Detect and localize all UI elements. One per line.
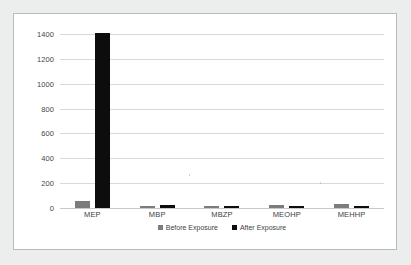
bar-group: [125, 32, 190, 208]
y-axis-tick-label: 0: [50, 204, 54, 213]
x-axis-labels: MEPMBPMBZPMEOHPMEHHP: [60, 210, 384, 219]
y-axis-tick-label: 600: [41, 129, 54, 138]
bar-group: [319, 32, 384, 208]
x-axis-label: MBP: [125, 210, 190, 219]
bar: [95, 33, 110, 208]
gridline-0: 0: [60, 208, 384, 209]
screenshot-root: 0200400600800100012001400 MEPMBPMBZPMEOH…: [0, 0, 411, 265]
legend-label: After Exposure: [240, 224, 286, 231]
artifact-speck: [320, 182, 321, 184]
bar-groups: [60, 32, 384, 208]
bar-group: [190, 32, 255, 208]
y-axis-tick-label: 1000: [37, 79, 54, 88]
bar: [204, 206, 219, 208]
y-axis-tick-label: 400: [41, 154, 54, 163]
legend-label: Before Exposure: [166, 224, 218, 231]
x-axis-label: MBZP: [190, 210, 255, 219]
bar: [269, 205, 284, 208]
bar-group: [254, 32, 319, 208]
y-axis-tick-label: 800: [41, 104, 54, 113]
legend-swatch-icon: [232, 225, 237, 230]
legend-item[interactable]: Before Exposure: [158, 224, 218, 231]
bar-group: [60, 32, 125, 208]
bar: [334, 204, 349, 208]
chart-frame: 0200400600800100012001400 MEPMBPMBZPMEOH…: [13, 13, 397, 250]
plot-area: 0200400600800100012001400: [60, 32, 384, 208]
bar: [354, 206, 369, 208]
bar: [160, 205, 175, 208]
bar: [140, 206, 155, 208]
x-axis-label: MEP: [60, 210, 125, 219]
y-axis-tick-label: 200: [41, 179, 54, 188]
legend-swatch-icon: [158, 225, 163, 230]
bar: [289, 206, 304, 208]
y-axis-tick-label: 1400: [37, 30, 54, 39]
y-axis-tick-label: 1200: [37, 54, 54, 63]
x-axis-label: MEHHP: [319, 210, 384, 219]
x-axis-label: MEOHP: [254, 210, 319, 219]
bar: [75, 201, 90, 208]
chart-legend: Before ExposureAfter Exposure: [60, 224, 384, 231]
bar: [224, 206, 239, 208]
legend-item[interactable]: After Exposure: [232, 224, 286, 231]
artifact-speck: [189, 174, 190, 176]
